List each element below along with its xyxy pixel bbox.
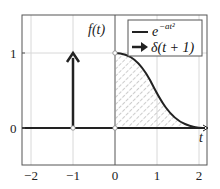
x-axis-label: t bbox=[199, 130, 204, 145]
open-circle-marker bbox=[71, 126, 75, 130]
shaded-area bbox=[115, 53, 203, 128]
y-tick-0: 0 bbox=[10, 121, 17, 136]
y-axis-label: f(t) bbox=[88, 22, 105, 38]
x-tick: −2 bbox=[24, 168, 38, 183]
x-tick: 1 bbox=[154, 168, 161, 183]
open-circle-marker bbox=[113, 126, 117, 130]
legend: e −at² δ(t + 1) bbox=[128, 20, 202, 56]
legend-gaussian-label: e bbox=[152, 24, 158, 39]
legend-gaussian-exponent: −at² bbox=[159, 21, 175, 31]
open-circle-marker bbox=[113, 51, 117, 55]
y-tick-1: 1 bbox=[10, 46, 17, 61]
x-tick: 0 bbox=[112, 168, 119, 183]
legend-delta-label: δ(t + 1) bbox=[151, 40, 195, 56]
x-tick: −1 bbox=[66, 168, 80, 183]
x-tick: 2 bbox=[196, 168, 203, 183]
chart-canvas: 1 0 −2 −1 0 1 2 f(t) t e −at² δ(t + 1) bbox=[0, 0, 220, 189]
